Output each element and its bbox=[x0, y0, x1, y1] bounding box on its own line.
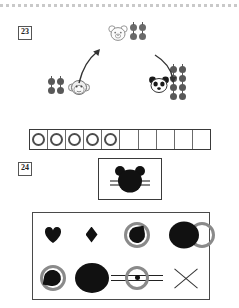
cross-x-icon bbox=[171, 263, 201, 293]
ten-frame-cell[interactable] bbox=[66, 130, 84, 149]
apple-icon bbox=[130, 24, 137, 31]
ring-icon bbox=[86, 133, 99, 146]
shape-cell-ring-pie bbox=[111, 213, 163, 256]
ten-frame-cell-empty[interactable] bbox=[139, 130, 157, 149]
apple-icon bbox=[57, 78, 64, 85]
ring-icon bbox=[32, 133, 45, 146]
worksheet-page: 23 bbox=[0, 0, 239, 308]
gray-ring-icon bbox=[40, 265, 66, 291]
dotted-top-rule bbox=[0, 4, 239, 7]
ring-icon bbox=[68, 133, 81, 146]
bear-head-silhouette-icon bbox=[108, 163, 152, 195]
gray-ring-icon bbox=[124, 222, 150, 248]
ten-frame-cell[interactable] bbox=[84, 130, 102, 149]
target-with-lines-icon bbox=[111, 265, 163, 291]
shape-cell-heart bbox=[33, 213, 72, 256]
shape-cell-cross bbox=[163, 256, 209, 299]
bear-face-icon bbox=[108, 25, 126, 40]
counting-cycle-diagram bbox=[0, 18, 239, 126]
shape-cell-filled-circle bbox=[72, 256, 111, 299]
shape-cell-ring-blob bbox=[33, 256, 72, 299]
ten-frame-cell-empty[interactable] bbox=[120, 130, 138, 149]
apple-group-monkey bbox=[48, 78, 64, 94]
shape-cell-diamond bbox=[72, 213, 111, 256]
apple-icon bbox=[139, 33, 146, 40]
ring-icon bbox=[104, 133, 117, 146]
apple-icon bbox=[48, 78, 55, 85]
arrow-bear-to-panda bbox=[152, 52, 184, 92]
cycle-node-bear bbox=[108, 24, 146, 40]
pie-shape-icon bbox=[128, 225, 147, 244]
ten-frame-cell[interactable] bbox=[48, 130, 66, 149]
apple-icon bbox=[57, 87, 64, 94]
ten-frame-cell-empty[interactable] bbox=[193, 130, 210, 149]
apple-icon bbox=[139, 24, 146, 31]
apple-group-bear bbox=[130, 24, 146, 40]
apple-icon bbox=[48, 87, 55, 94]
bear-head-figure-box bbox=[98, 158, 162, 200]
shape-cell-target bbox=[111, 256, 163, 299]
ring-icon bbox=[50, 133, 63, 146]
ten-frame-strip[interactable] bbox=[29, 129, 211, 150]
shape-cell-ellipse-ring bbox=[163, 213, 209, 256]
apple-icon bbox=[179, 93, 186, 100]
heart-shape-icon bbox=[43, 226, 63, 244]
ellipse-over-ring-group bbox=[163, 220, 209, 250]
apple-icon bbox=[130, 33, 137, 40]
exercise-number-24: 24 bbox=[18, 162, 32, 176]
filled-circle-icon bbox=[75, 263, 109, 293]
diamond-shape-icon bbox=[86, 227, 98, 243]
ten-frame-cell-empty[interactable] bbox=[175, 130, 193, 149]
apple-icon bbox=[170, 93, 177, 100]
arrow-monkey-to-bear bbox=[74, 46, 104, 90]
shape-collection-panel bbox=[32, 212, 210, 300]
filled-ellipse-icon bbox=[169, 221, 199, 248]
ten-frame-cell-empty[interactable] bbox=[157, 130, 175, 149]
ten-frame-cell[interactable] bbox=[30, 130, 48, 149]
ten-frame-cell[interactable] bbox=[102, 130, 120, 149]
blob-shape-icon bbox=[43, 268, 63, 287]
center-dot-icon bbox=[135, 275, 140, 280]
